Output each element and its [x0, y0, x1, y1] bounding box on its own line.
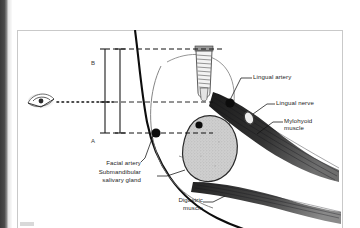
- label-digastric-muscle-line2: muscle: [148, 204, 203, 211]
- facial-artery-dot-upper: [195, 121, 202, 128]
- scan-edge-gradient: [8, 0, 12, 228]
- leader-digastric: [203, 196, 225, 202]
- implant-apex: [200, 88, 208, 101]
- digastric-muscle-body: [191, 182, 341, 224]
- dental-implant: [195, 46, 213, 101]
- scan-edge-band: [0, 0, 8, 228]
- label-lingual-nerve: Lingual nerve: [276, 99, 314, 106]
- leader-submandibular: [157, 170, 185, 176]
- measurement-bars: [100, 49, 125, 133]
- eye-view-icon: [28, 94, 54, 109]
- label-lingual-artery: Lingual artery: [253, 73, 291, 80]
- label-mylohyoid-muscle-line2: muscle: [284, 124, 304, 131]
- label-submandibular-gland-line2: salivary gland: [74, 176, 141, 183]
- figure-page: B A Lingual artery Lingual nerve Mylohyo…: [0, 0, 360, 228]
- label-submandibular-gland-line1: Submandibular: [74, 168, 141, 175]
- leader-lingual-nerve: [253, 104, 275, 114]
- leader-facial-artery: [141, 136, 153, 162]
- label-digastric-muscle-line1: Digastric: [148, 196, 203, 203]
- caption-stub: [20, 222, 34, 226]
- submandibular-salivary-gland: [183, 116, 238, 182]
- measurement-label-b: B: [91, 60, 95, 66]
- measurement-label-a: A: [91, 138, 95, 144]
- leader-lingual-artery: [230, 78, 252, 100]
- label-facial-artery: Facial artery: [84, 159, 141, 166]
